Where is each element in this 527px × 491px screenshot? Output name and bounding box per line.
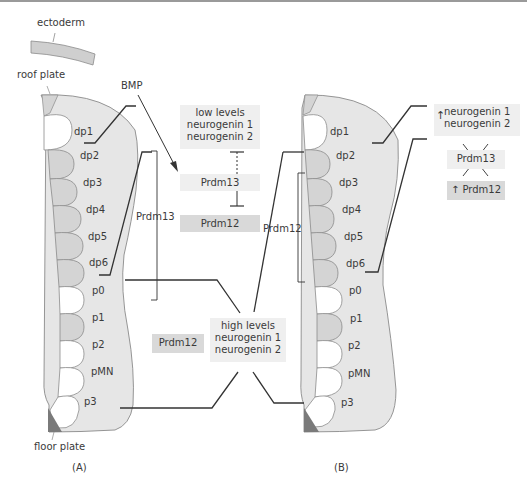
panel-b-label: (B) [334,462,349,474]
prdm12-bracket-label: Prdm12 [263,223,302,235]
domain-label-a: dp2 [80,150,99,161]
domain-label-b: p3 [341,397,354,408]
domain-label-a: dp6 [89,257,108,268]
ectoderm-band [31,41,95,65]
neurogenin-up-box: ↑ neurogenin 1 neurogenin 2 [434,104,520,136]
prdm12-up-box: ↑ Prdm12 [447,181,505,200]
prdm12-side-text: Prdm12 [159,337,198,348]
bmp-label: BMP [121,80,143,92]
floor-plate-label: floor plate [34,441,85,453]
high-levels-line: high levels [210,320,286,332]
neurogenin-2-line: neurogenin 2 [210,344,286,356]
domain-label-a: p2 [92,339,105,350]
neurogenin-1-line: neurogenin 1 [180,119,260,131]
neurogenin-1-line: neurogenin 1 [434,106,520,118]
diagram-canvas [0,0,527,491]
domain-label-b: p2 [348,340,361,351]
low-levels-line: low levels [180,107,260,119]
low-levels-box: low levels neurogenin 1 neurogenin 2 [180,105,260,149]
high-levels-box: high levels neurogenin 1 neurogenin 2 [210,318,286,362]
domain-label-b: dp3 [339,177,358,188]
neurogenin-1-line: neurogenin 1 [210,332,286,344]
neurogenin-2-line: neurogenin 2 [434,118,520,130]
arrow-up-icon: ↑ [436,110,445,122]
prdm12-box-a: Prdm12 [180,215,260,232]
domain-label-a: p1 [92,312,105,323]
domain-label-a: p3 [84,396,97,407]
prdm13-crossed-text: Prdm13 [457,153,496,164]
domain-label-b: dp2 [336,150,355,161]
domain-label-b: dp1 [330,126,349,137]
panel-a-label: (A) [72,462,87,474]
prdm13-text: Prdm13 [201,177,240,188]
prdm13-crossed-box: Prdm13 [447,150,505,169]
domain-label-b: p1 [350,313,363,324]
domain-label-a: dp1 [74,126,93,137]
domain-label-a: dp5 [88,231,107,242]
domain-label-b: dp4 [342,204,361,215]
ectoderm-label: ectoderm [37,17,85,29]
domain-label-b: p0 [349,285,362,296]
prdm13-bracket-label: Prdm13 [136,211,175,223]
domain-label-a: p0 [92,285,105,296]
neurogenin-2-line: neurogenin 2 [180,131,260,143]
domain-label-a: dp4 [86,204,105,215]
domain-label-b: pMN [348,368,370,379]
prdm13-box-a: Prdm13 [180,174,260,191]
domain-label-b: dp5 [344,231,363,242]
prdm12-up-text: Prdm12 [462,184,501,195]
prdm12-text: Prdm12 [201,218,240,229]
roof-plate-label: roof plate [17,69,65,81]
arrow-up-icon: ↑ [451,184,459,195]
domain-label-a: dp3 [83,177,102,188]
prdm12-side-box: Prdm12 [152,334,204,353]
domain-label-b: dp6 [346,258,365,269]
domain-label-a: pMN [91,366,113,377]
